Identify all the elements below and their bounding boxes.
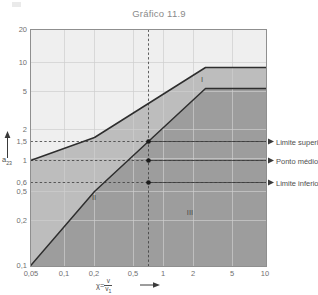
annotation-limite-superior: Limite superior <box>276 138 318 147</box>
region-label-II: II <box>92 193 96 202</box>
y-tick-2: 2 <box>23 125 27 134</box>
y-tick-0-6: 0,6 <box>17 178 27 187</box>
x-tick-labels: 0,05 0,1 0,2 0,5 1 2 5 10 <box>24 269 269 278</box>
x-tick-5: 5 <box>230 269 234 278</box>
annotation-arrowheads <box>268 138 274 185</box>
x-tick-0-05: 0,05 <box>24 269 39 278</box>
y-tick-0-2: 0,2 <box>17 216 27 225</box>
x-axis-arrow-icon <box>140 282 160 288</box>
x-tick-1: 1 <box>161 269 165 278</box>
plot-area: I II III 20 10 5 2 1,5 1 0,6 0,5 0,2 0,1… <box>0 0 318 295</box>
point-limite-superior <box>146 139 151 144</box>
annotation-ponto-medio: Ponto médio <box>276 157 318 166</box>
y-tick-10: 10 <box>19 58 27 67</box>
arrow-upper <box>268 138 274 144</box>
y-axis-label-sub: 23 <box>6 160 12 166</box>
x-axis-label: χ=vv1 <box>96 278 112 295</box>
y-axis-label: a23 <box>2 155 12 166</box>
y-tick-5: 5 <box>23 87 27 96</box>
y-tick-0-5: 0,5 <box>17 187 27 196</box>
x-tick-0-5: 0,5 <box>128 269 138 278</box>
y-tick-1: 1 <box>23 156 27 165</box>
annotation-limite-inferior: Limite inferior <box>276 179 318 188</box>
y-axis-arrow-icon <box>5 131 11 158</box>
region-label-III: III <box>187 208 193 217</box>
x-tick-2: 2 <box>191 269 195 278</box>
point-ponto-medio <box>146 158 151 163</box>
arrow-lower <box>268 179 274 185</box>
y-tick-1-5: 1,5 <box>17 137 27 146</box>
x-tick-10: 10 <box>261 269 269 278</box>
x-tick-0-1: 0,1 <box>59 269 69 278</box>
arrow-mid <box>268 157 274 163</box>
x-axis-label-fraction: vv1 <box>104 278 112 295</box>
x-axis-fraction-denominator: v1 <box>104 286 112 295</box>
chart-svg: I II III 20 10 5 2 1,5 1 0,6 0,5 0,2 0,1… <box>0 0 318 295</box>
point-limite-inferior <box>146 180 151 185</box>
y-tick-20: 20 <box>19 25 27 34</box>
figure: Gráfico 11.9 <box>0 0 318 295</box>
x-tick-0-2: 0,2 <box>89 269 99 278</box>
region-label-I: I <box>201 75 203 84</box>
y-tick-labels: 20 10 5 2 1,5 1 0,6 0,5 0,2 0,1 <box>17 25 27 270</box>
x-axis-label-symbol: χ= <box>96 281 104 290</box>
